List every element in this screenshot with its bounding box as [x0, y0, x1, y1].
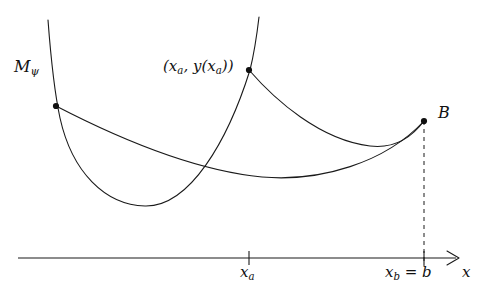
point-xa-y-xa — [246, 67, 252, 73]
label-tick-xa: xa — [240, 263, 255, 282]
figure-root: Mψ (xa, y(xa)) B xa xb = b x — [0, 0, 479, 303]
label-tick-xb: xb = b — [385, 263, 432, 282]
label-tick-xb-equals: = b — [400, 263, 432, 281]
label-manifold-base: M — [14, 57, 30, 76]
label-axis-x: x — [462, 263, 470, 281]
manifold-parabola-curve — [48, 17, 259, 206]
label-xa-close: )) — [222, 57, 234, 75]
upper-extremal-arc-curve — [249, 70, 424, 146]
point-b — [421, 118, 427, 124]
label-tick-xa-subscript: a — [248, 271, 254, 282]
label-xa-mid: , y(x — [183, 57, 215, 75]
point-m-psi — [53, 103, 59, 109]
label-point-xa-y-xa: (xa, y(xa)) — [163, 57, 234, 76]
diagram-canvas — [0, 0, 479, 303]
label-point-b: B — [438, 103, 450, 122]
lower-extremal-arc-curve — [56, 106, 424, 178]
label-manifold-subscript: ψ — [30, 65, 39, 78]
label-xa-open: (x — [163, 57, 177, 75]
label-manifold-m-psi: Mψ — [14, 57, 39, 78]
